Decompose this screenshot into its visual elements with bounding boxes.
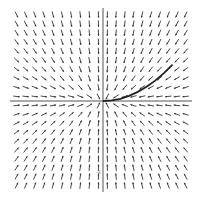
field-arrow-head	[98, 34, 100, 36]
field-arrow-head	[182, 104, 184, 106]
field-arrow-head	[115, 16, 117, 18]
field-arrow-head	[98, 165, 100, 167]
field-arrow-head	[89, 165, 91, 167]
field-arrow-head	[106, 25, 108, 27]
field-arrow-head	[98, 52, 100, 54]
field-arrow-head	[89, 182, 91, 184]
field-arrow-head	[89, 16, 91, 18]
field-arrow-head	[106, 71, 108, 73]
field-arrow-head	[106, 182, 108, 184]
field-arrow-head	[98, 129, 100, 131]
field-arrow-head	[106, 52, 108, 54]
field-arrow-head	[106, 165, 108, 167]
field-arrow-head	[106, 80, 108, 82]
field-arrow-head	[115, 173, 117, 175]
field-arrow-head	[106, 129, 108, 131]
field-arrow-head	[98, 156, 100, 158]
field-arrow-head	[18, 104, 20, 106]
field-arrow-head	[98, 25, 100, 27]
field-arrow-head	[89, 25, 91, 27]
field-arrow-head	[106, 147, 108, 149]
tick-labels: -4	[96, 169, 101, 175]
field-arrow-head	[98, 147, 100, 149]
field-arrow-head	[115, 34, 117, 36]
field-arrow-head	[182, 96, 184, 98]
field-arrow-head	[98, 71, 100, 73]
field-arrow-head	[115, 25, 117, 27]
phase-portrait: -4	[0, 0, 200, 198]
field-arrow-head	[18, 96, 20, 98]
field-arrow-head	[106, 16, 108, 18]
field-arrow-head	[106, 34, 108, 36]
field-arrow-head	[89, 173, 91, 175]
field-arrow-head	[98, 120, 100, 122]
field-arrow-head	[98, 80, 100, 82]
tick-label: -4	[96, 169, 101, 175]
field-arrow-head	[106, 120, 108, 122]
field-arrow-head	[115, 182, 117, 184]
field-arrow-head	[106, 43, 108, 45]
field-arrow-head	[98, 182, 100, 184]
field-arrow-head	[89, 34, 91, 36]
field-arrow-head	[106, 61, 108, 63]
trajectory-curve	[103, 65, 173, 101]
field-arrow-head	[106, 138, 108, 140]
field-arrow-head	[98, 16, 100, 18]
field-arrow-head	[98, 138, 100, 140]
field-arrow-head	[98, 61, 100, 63]
field-arrow-head	[98, 43, 100, 45]
field-arrow-head	[115, 165, 117, 167]
vector-field	[13, 11, 188, 188]
field-arrow-head	[106, 173, 108, 175]
field-arrow-head	[106, 156, 108, 158]
